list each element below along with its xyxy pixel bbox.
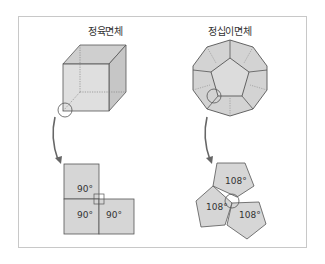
cube-face-angle-bottom-right: 90°	[106, 210, 122, 220]
dodecahedron-net	[196, 163, 266, 239]
diagram-graphics: 90° 90° 90° 108° 108° 108°	[0, 0, 325, 264]
cube-face-angle-bottom-left: 90°	[77, 210, 93, 220]
dodecahedron-arrow-icon	[205, 117, 213, 164]
pentagon-face-angle-top: 108°	[225, 176, 247, 186]
cube-net	[64, 164, 134, 234]
dodecahedron-solid	[193, 40, 267, 116]
cube-solid	[58, 45, 126, 117]
cube-arrow-icon	[53, 117, 62, 164]
pentagon-face-angle-right: 108°	[239, 210, 261, 220]
pentagon-face-angle-left: 108°	[206, 202, 228, 212]
cube-face-angle-top: 90°	[77, 184, 93, 194]
